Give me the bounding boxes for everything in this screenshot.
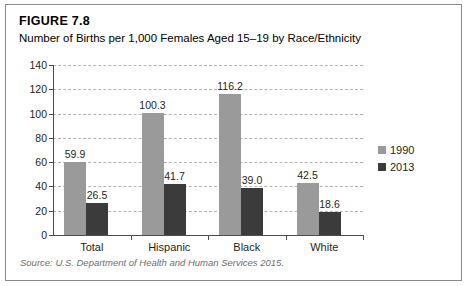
y-tick-label: 140 xyxy=(29,59,47,71)
bar-value-label: 116.2 xyxy=(217,80,243,92)
legend-item: 1990 xyxy=(378,141,414,158)
y-tick-label: 80 xyxy=(35,132,47,144)
x-tick-mark xyxy=(363,235,364,240)
bar-group: 59.926.5Total xyxy=(53,65,131,235)
bar-group: 42.518.6White xyxy=(286,65,364,235)
legend-label: 2013 xyxy=(390,161,414,173)
x-axis-label: Hispanic xyxy=(131,241,209,253)
chart-plot-area: 020406080100120140 59.926.5Total100.341.… xyxy=(53,65,363,235)
bar-group: 100.341.7Hispanic xyxy=(131,65,209,235)
bar: 39.0 xyxy=(241,188,263,235)
bar-value-label: 39.0 xyxy=(242,174,262,186)
figure-frame: FIGURE 7.8 Number of Births per 1,000 Fe… xyxy=(5,4,462,281)
x-tick-mark xyxy=(208,235,209,240)
figure-header: FIGURE 7.8 Number of Births per 1,000 Fe… xyxy=(19,13,439,47)
y-tick-label: 40 xyxy=(35,180,47,192)
chart-legend: 19902013 xyxy=(378,141,414,175)
x-axis-label: White xyxy=(286,241,364,253)
bar: 41.7 xyxy=(164,184,186,235)
figure-number: FIGURE 7.8 xyxy=(19,13,439,29)
x-tick-mark xyxy=(286,235,287,240)
legend-item: 2013 xyxy=(378,158,414,175)
y-tick-label: 60 xyxy=(35,156,47,168)
bar-value-label: 42.5 xyxy=(297,169,317,181)
bar-value-label: 18.6 xyxy=(319,198,339,210)
bar-value-label: 59.9 xyxy=(65,148,85,160)
bar: 26.5 xyxy=(86,203,108,235)
bar-group: 116.239.0Black xyxy=(208,65,286,235)
bar: 42.5 xyxy=(297,183,319,235)
bar-value-label: 41.7 xyxy=(164,170,184,182)
bar: 59.9 xyxy=(64,162,86,235)
bar-value-label: 100.3 xyxy=(139,99,165,111)
bar: 116.2 xyxy=(219,94,241,235)
y-tick-label: 20 xyxy=(35,205,47,217)
bar: 100.3 xyxy=(142,113,164,235)
x-axis-label: Black xyxy=(208,241,286,253)
bar: 18.6 xyxy=(319,212,341,235)
x-tick-mark xyxy=(131,235,132,240)
bar-value-label: 26.5 xyxy=(87,189,107,201)
legend-swatch xyxy=(378,163,386,171)
y-tick-label: 0 xyxy=(41,229,47,241)
figure-title: Number of Births per 1,000 Females Aged … xyxy=(19,30,439,47)
legend-swatch xyxy=(378,146,386,154)
legend-label: 1990 xyxy=(390,144,414,156)
y-tick-label: 120 xyxy=(29,83,47,95)
y-tick-label: 100 xyxy=(29,108,47,120)
x-axis-label: Total xyxy=(53,241,131,253)
source-note: Source: U.S. Department of Health and Hu… xyxy=(20,257,284,268)
